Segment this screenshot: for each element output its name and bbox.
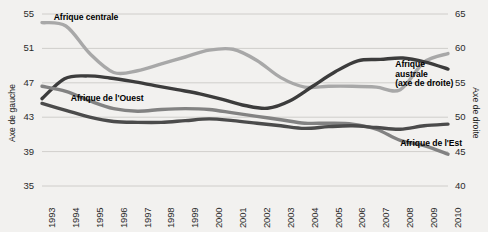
australe-line-3: (axe de droite) (395, 78, 453, 88)
chart-container: Axe de gauche Axe de droite 555147433935… (0, 0, 488, 232)
series-label-afrique-ouest: Afrique de l'Ouest (71, 94, 144, 104)
plot-area (0, 0, 488, 232)
series-line-afrique-de-l-est (42, 103, 448, 129)
series-lines (42, 23, 448, 155)
series-label-afrique-est: Afrique de l'Est (400, 139, 462, 149)
australe-line-1: Afrique (395, 59, 425, 69)
series-label-afrique-centrale: Afrique centrale (54, 13, 119, 23)
series-line-afrique-centrale (42, 23, 448, 92)
series-label-afrique-australe: Afrique australe (axe de droite) (395, 60, 453, 89)
australe-line-2: australe (395, 69, 428, 79)
